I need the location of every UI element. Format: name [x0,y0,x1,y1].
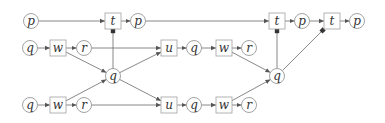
edge-qm1-u2 [120,79,161,100]
node-label-t3: t [330,15,335,27]
node-label-w1: w [53,42,63,54]
node-label-qm1: q [109,70,117,82]
node-label-p3: p [298,15,306,27]
node-label-u1: u [165,42,173,54]
petri-net-diagram: ptptptpqwruqwrqqqwruqwr [0,0,385,123]
edge-qm1-u1 [120,52,161,73]
node-label-p1: p [27,15,35,27]
node-label-q2: q [190,42,198,54]
node-label-q4: q [190,99,198,111]
node-label-p2: p [134,15,142,27]
node-label-t1: t [111,15,116,27]
node-label-q1: q [26,42,34,54]
node-label-r3: r [81,99,87,111]
node-label-w2: w [219,42,229,54]
node-label-qm2: q [273,70,281,82]
node-label-r1: r [81,42,87,54]
node-label-w4: w [219,99,229,111]
node-label-p4: p [353,15,361,27]
node-label-q3: q [26,99,34,111]
edge-qm2-t3 [282,30,322,70]
node-label-u2: u [165,99,173,111]
node-label-r2: r [246,42,252,54]
node-label-r4: r [246,99,252,111]
node-label-w3: w [53,99,63,111]
node-label-t2: t [275,15,280,27]
